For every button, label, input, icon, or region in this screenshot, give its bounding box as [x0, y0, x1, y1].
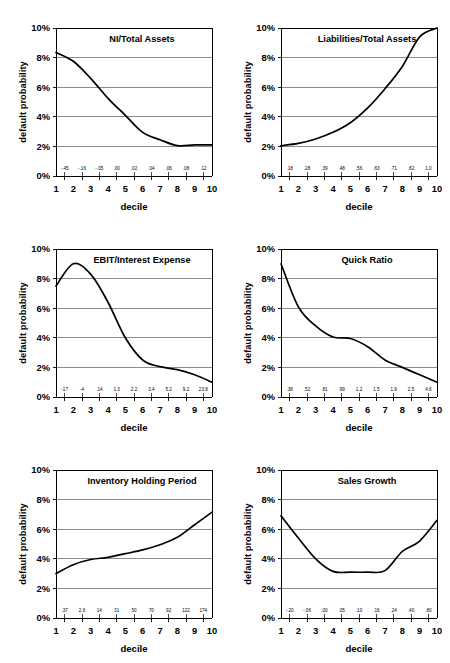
chart-title: Liabilities/Total Assets: [318, 34, 417, 44]
y-axis-ticks: 0%2%4%6%8%10%: [31, 22, 56, 181]
y-tick-label: 0%: [36, 391, 50, 402]
y-tick-label: 4%: [36, 111, 50, 122]
y-axis-ticks: 0%2%4%6%8%10%: [31, 243, 56, 402]
y-tick-label: 2%: [261, 362, 275, 373]
y-axis-ticks: 0%2%4%6%8%10%: [256, 464, 281, 623]
secondary-tick-label: -.05: [95, 166, 103, 171]
secondary-tick-label: 1.9: [390, 387, 397, 392]
decile-tick-label: 4: [105, 183, 111, 194]
decile-tick-label: 7: [157, 183, 162, 194]
y-tick-label: 2%: [261, 141, 275, 152]
decile-tick-label: 10: [432, 404, 442, 415]
y-tick-label: 6%: [261, 303, 275, 314]
decile-tick-label: 2: [71, 183, 76, 194]
secondary-tick-label: 3.4: [148, 387, 155, 392]
y-tick-label: 10%: [31, 22, 50, 33]
secondary-tick-label: .82: [408, 166, 415, 171]
x-axis-ticks: 12345678910: [53, 397, 217, 415]
y-tick-label: 2%: [36, 362, 50, 373]
decile-tick-label: 4: [105, 625, 111, 636]
y-tick-label: 8%: [36, 494, 50, 505]
chart-inventory-holding-period: 0%2%4%6%8%10%default probability.372.614…: [0, 442, 225, 663]
y-tick-label: 8%: [261, 52, 275, 63]
secondary-tick-label: 31: [114, 608, 120, 613]
x-axis-ticks: 12345678910: [278, 618, 442, 636]
secondary-tick-label: .10: [356, 608, 363, 613]
x-axis-ticks: 12345678910: [278, 176, 442, 194]
secondary-tick-label: .28: [304, 166, 311, 171]
secondary-tick-label: .63: [373, 166, 380, 171]
decile-tick-label: 8: [400, 183, 405, 194]
y-tick-label: 10%: [31, 243, 50, 254]
decile-tick-label: 7: [382, 183, 387, 194]
decile-tick-label: 10: [207, 183, 217, 194]
y-tick-label: 4%: [36, 553, 50, 564]
secondary-tick-label: 9.2: [183, 387, 190, 392]
secondary-tick-label: .39: [321, 166, 328, 171]
chart-title: Sales Growth: [338, 476, 397, 486]
decile-tick-label: 7: [157, 625, 162, 636]
secondary-tick-label: -.16: [78, 166, 86, 171]
decile-tick-label: 7: [382, 404, 387, 415]
decile-tick-label: 6: [140, 625, 145, 636]
x-axis-title: decile: [120, 643, 147, 654]
y-tick-label: 2%: [36, 583, 50, 594]
y-axis-title: default probability: [18, 502, 28, 584]
y-axis-title: default probability: [18, 281, 28, 363]
decile-tick-label: 3: [313, 183, 318, 194]
chart-sales-growth: 0%2%4%6%8%10%default probability-.20-.06…: [225, 442, 450, 663]
secondary-tick-label: .00: [321, 608, 328, 613]
gridlines: [281, 470, 437, 588]
y-axis-title: default probability: [243, 60, 253, 142]
decile-tick-label: 6: [365, 625, 370, 636]
y-tick-label: 2%: [261, 583, 275, 594]
y-tick-label: 4%: [261, 111, 275, 122]
secondary-tick-label: .06: [165, 166, 172, 171]
figure-page: 0%2%4%6%8%10%default probability-.45-.16…: [0, 0, 450, 663]
decile-tick-label: 6: [365, 183, 370, 194]
secondary-axis: .18.28.39.48.56.63.71.821.0: [286, 166, 431, 176]
secondary-tick-label: 2.2: [131, 387, 138, 392]
data-series-line: [281, 264, 437, 382]
secondary-axis: .372.61431507092122174: [61, 608, 207, 618]
y-axis-title: default probability: [243, 281, 253, 363]
y-tick-label: 0%: [261, 612, 275, 623]
decile-tick-label: 5: [123, 183, 128, 194]
chart-title: EBIT/Interest Expense: [93, 255, 190, 265]
secondary-tick-label: 1.3: [113, 387, 120, 392]
secondary-tick-label: -.06: [303, 608, 311, 613]
chart-canvas: 0%2%4%6%8%10%default probability-.20-.06…: [225, 442, 450, 663]
chart-canvas: 0%2%4%6%8%10%default probability-17-4.14…: [0, 221, 225, 442]
decile-tick-label: 8: [175, 625, 180, 636]
y-tick-label: 0%: [36, 612, 50, 623]
y-tick-label: 4%: [36, 332, 50, 343]
decile-tick-label: 4: [105, 404, 111, 415]
decile-tick-label: 8: [175, 404, 180, 415]
y-tick-label: 2%: [36, 141, 50, 152]
decile-tick-label: 8: [400, 404, 405, 415]
decile-tick-label: 5: [348, 183, 353, 194]
secondary-tick-label: 122: [182, 608, 190, 613]
x-axis-title: decile: [345, 643, 372, 654]
secondary-tick-label: .71: [390, 166, 397, 171]
y-axis-ticks: 0%2%4%6%8%10%: [256, 243, 281, 402]
y-tick-label: 10%: [256, 243, 275, 254]
secondary-tick-label: -4: [80, 387, 85, 392]
decile-tick-label: 7: [382, 625, 387, 636]
secondary-tick-label: 2.5: [408, 387, 415, 392]
decile-tick-label: 7: [157, 404, 162, 415]
secondary-tick-label: .00: [113, 166, 120, 171]
decile-tick-label: 2: [296, 625, 301, 636]
x-axis-title: decile: [120, 422, 147, 433]
secondary-tick-label: .81: [321, 387, 328, 392]
secondary-tick-label: .08: [183, 166, 190, 171]
decile-tick-label: 4: [330, 404, 336, 415]
secondary-tick-label: .02: [131, 166, 138, 171]
x-axis-ticks: 12345678910: [278, 397, 442, 415]
x-axis-ticks: 12345678910: [53, 176, 217, 194]
secondary-tick-label: 174: [199, 608, 207, 613]
secondary-tick-label: 14: [97, 608, 103, 613]
chart-ni-total-assets: 0%2%4%6%8%10%default probability-.45-.16…: [0, 0, 225, 221]
chart-canvas: 0%2%4%6%8%10%default probability.38.52.8…: [225, 221, 450, 442]
y-tick-label: 10%: [256, 22, 275, 33]
